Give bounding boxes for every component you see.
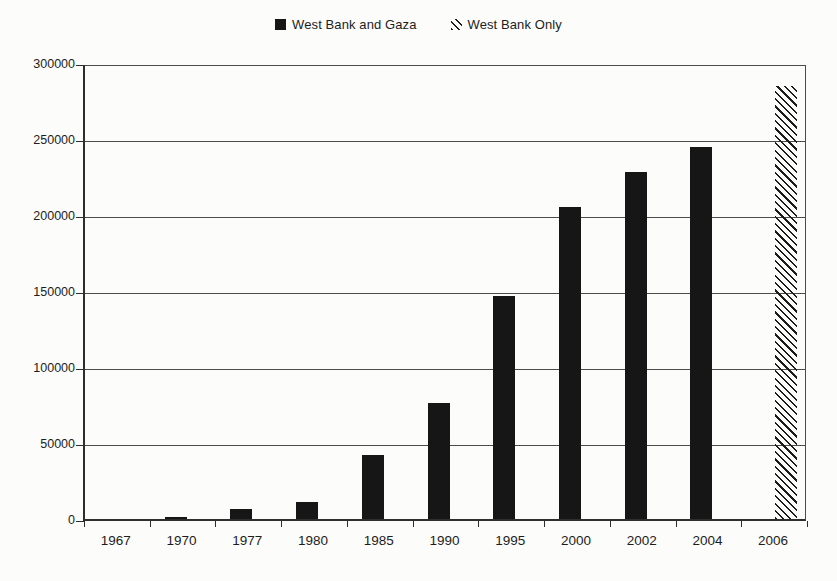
settler-population-bar-chart: West Bank and Gaza West Bank Only 050000…: [0, 0, 837, 581]
legend-label-west-bank-and-gaza: West Bank and Gaza: [292, 17, 416, 32]
bar-west-bank-and-gaza-1985: [362, 455, 384, 519]
bar-west-bank-and-gaza-1990: [428, 403, 450, 519]
x-axis-tick-mark: [676, 521, 677, 527]
x-axis-tick-label-1995: 1995: [480, 533, 540, 548]
x-axis-tick-mark: [347, 521, 348, 527]
solid-black-square-icon: [275, 19, 286, 30]
x-axis-tick-label-2002: 2002: [612, 533, 672, 548]
x-axis-tick-mark: [150, 521, 151, 527]
x-axis-tick-label-2000: 2000: [546, 533, 606, 548]
plot-area: [83, 65, 806, 521]
chart-legend: West Bank and Gaza West Bank Only: [0, 14, 837, 34]
y-axis-tick-mark: [76, 369, 85, 370]
legend-label-west-bank-only: West Bank Only: [468, 17, 562, 32]
y-axis-tick-label: 250000: [5, 133, 75, 147]
x-axis-tick-mark: [741, 521, 742, 527]
x-axis-tick-label-1970: 1970: [152, 533, 212, 548]
bar-west-bank-and-gaza-2000: [559, 207, 581, 519]
legend-item-west-bank-only: West Bank Only: [451, 17, 562, 32]
y-axis-tick-mark: [76, 141, 85, 142]
bar-west-bank-and-gaza-2002: [625, 172, 647, 519]
x-axis-tick-label-1985: 1985: [349, 533, 409, 548]
x-axis-tick-mark: [478, 521, 479, 527]
x-axis-tick-mark: [413, 521, 414, 527]
y-axis-tick-mark: [76, 217, 85, 218]
x-axis-tick-label-1990: 1990: [415, 533, 475, 548]
x-axis-tick-mark: [807, 521, 808, 527]
x-axis-tick-mark: [544, 521, 545, 527]
x-axis-tick-label-1967: 1967: [86, 533, 146, 548]
x-axis-tick-label-1980: 1980: [283, 533, 343, 548]
bar-west-bank-and-gaza-1977: [230, 509, 252, 519]
x-axis-tick-mark: [281, 521, 282, 527]
y-axis-tick-label: 50000: [5, 437, 75, 451]
x-axis-tick-mark: [84, 521, 85, 527]
bar-west-bank-only-2006: [775, 86, 797, 519]
y-axis-tick-label: 300000: [5, 57, 75, 71]
x-axis-tick-mark: [215, 521, 216, 527]
y-axis-tick-label: 0: [5, 513, 75, 527]
bar-west-bank-and-gaza-1970: [165, 517, 187, 519]
x-axis-tick-label-2006: 2006: [743, 533, 803, 548]
x-axis-tick-label-1977: 1977: [217, 533, 277, 548]
x-axis-tick-label-2004: 2004: [677, 533, 737, 548]
diagonal-hatch-icon: [451, 19, 462, 30]
y-axis-tick-mark: [76, 293, 85, 294]
y-axis-tick-label: 200000: [5, 209, 75, 223]
bar-west-bank-and-gaza-1995: [493, 296, 515, 519]
y-axis-tick-label: 100000: [5, 361, 75, 375]
y-axis-tick-mark: [76, 65, 85, 66]
bar-west-bank-and-gaza-1980: [296, 502, 318, 519]
legend-item-west-bank-and-gaza: West Bank and Gaza: [275, 17, 416, 32]
x-axis-tick-mark: [610, 521, 611, 527]
bar-west-bank-and-gaza-2004: [690, 147, 712, 519]
gridline-250000: [85, 141, 805, 142]
y-axis-tick-label: 150000: [5, 285, 75, 299]
y-axis-tick-mark: [76, 445, 85, 446]
